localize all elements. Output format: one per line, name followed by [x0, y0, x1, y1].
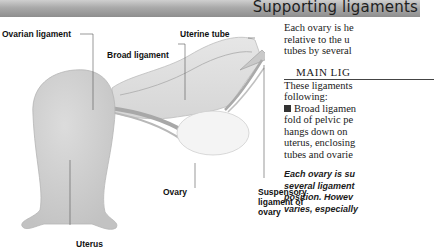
section-body-line: following:	[284, 91, 424, 103]
section-title: MAIN LIG	[296, 66, 424, 78]
page-title: Supporting ligaments	[253, 0, 418, 16]
label-uterus: Uterus	[76, 239, 103, 249]
label-broad-ligament: Broad ligament	[107, 50, 169, 60]
caption: Each ovary is su several ligament positi…	[284, 169, 424, 215]
bullet-square-icon	[284, 105, 291, 112]
label-ovary: Ovary	[163, 187, 187, 197]
bullet-line: Broad ligamen	[284, 103, 424, 115]
label-ovarian-ligament: Ovarian ligament	[2, 29, 71, 39]
bullet-line: fold of pelvic pe	[284, 114, 424, 126]
page-header: Supporting ligaments	[0, 0, 420, 17]
bullet-line: uterus, enclosing	[284, 137, 424, 149]
intro-line: Each ovary is he	[284, 22, 424, 34]
body-text: Each ovary is he relative to the u tubes…	[284, 22, 424, 215]
anatomy-diagram: Ovarian ligament Uterine tube Broad liga…	[0, 17, 265, 244]
bullet-line: tubes and ovarie	[284, 149, 424, 161]
intro-line: tubes by several	[284, 45, 424, 57]
intro-line: relative to the u	[284, 34, 424, 46]
label-uterine-tube: Uterine tube	[180, 29, 230, 39]
bullet-line: hangs down on	[284, 126, 424, 138]
section-body-line: These ligaments	[284, 80, 424, 92]
